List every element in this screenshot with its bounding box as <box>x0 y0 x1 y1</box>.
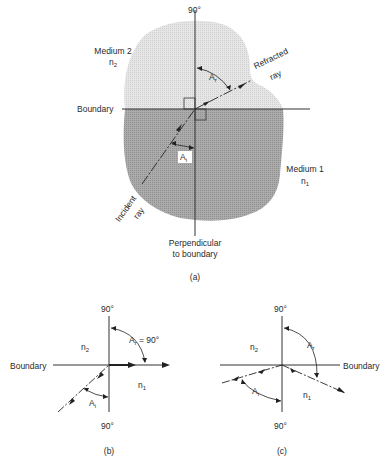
refraction-diagram <box>0 0 392 466</box>
c-angle-incidence-label: Ai <box>252 386 259 399</box>
panel-a <box>122 10 310 236</box>
c-n2-label: n2 <box>250 342 258 355</box>
b-n2-label: n2 <box>81 342 89 355</box>
b-angle-incidence-label: Ai <box>89 398 96 411</box>
b-angle-refraction-label: Ar = 90° <box>129 335 159 348</box>
medium2-label: Medium 2 <box>88 46 138 56</box>
caption-a: (a) <box>185 272 205 282</box>
medium1-region <box>124 109 284 221</box>
b-n1-label: n1 <box>138 380 146 393</box>
b-top-angle-label: 90° <box>101 304 114 314</box>
caption-c: (c) <box>272 446 292 456</box>
perpendicular-label-2: to boundary <box>160 249 230 259</box>
c-boundary-label: Boundary <box>343 361 379 371</box>
c-top-angle-label: 90° <box>274 304 287 314</box>
panel-b <box>53 316 170 412</box>
medium1-index: n1 <box>295 176 315 189</box>
b-boundary-arrow <box>162 362 170 368</box>
b-boundary-label: Boundary <box>10 361 46 371</box>
c-angle-arc-incidence <box>242 380 281 401</box>
medium1-label: Medium 1 <box>280 164 330 174</box>
medium2-index: n2 <box>103 57 123 70</box>
perpendicular-label: Perpendicular <box>160 238 230 248</box>
caption-b: (b) <box>99 446 119 456</box>
c-angle-refraction-label: Ar <box>307 340 315 353</box>
a-boundary-label: Boundary <box>77 104 113 114</box>
a-angle-refraction-label: Ar <box>209 72 217 85</box>
c-n1-label: n1 <box>303 390 311 403</box>
a-top-angle-label: 90° <box>188 5 201 15</box>
a-angle-incidence-label: Ai <box>180 152 187 165</box>
b-incident-ray <box>58 365 109 412</box>
c-incident-ray <box>222 365 282 383</box>
b-bottom-angle-label: 90° <box>101 421 114 431</box>
panel-c <box>220 316 345 412</box>
c-bottom-angle-label: 90° <box>274 421 287 431</box>
